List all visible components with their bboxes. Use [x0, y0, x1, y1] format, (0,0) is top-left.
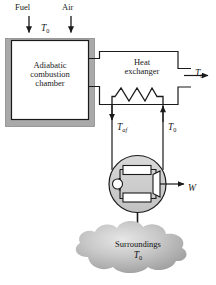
air-label: Air — [62, 3, 73, 12]
heat-exchanger-label: Heat exchanger — [108, 58, 176, 76]
fuel-label: Fuel — [15, 3, 30, 12]
heat-engine-shape — [109, 156, 166, 213]
combustion-chamber-label: Adiabatic combustion chamber — [12, 61, 88, 89]
figure-canvas: Fuel Air T0 Adiabatic combustion chamber… — [0, 0, 216, 285]
work-output-label: W — [188, 177, 196, 194]
heat-exchanger-coil — [112, 88, 163, 105]
cold-stream-temperature-label: T0 — [168, 116, 176, 133]
chamber-to-hx-lower-pipe — [89, 87, 192, 105]
surroundings-label: Surroundings T0 — [93, 240, 183, 260]
combustion-chamber-label-line3: chamber — [12, 79, 88, 88]
heat-exchanger-label-line2: exchanger — [108, 67, 176, 76]
surroundings-temperature-label: T0 — [93, 250, 183, 260]
inlet-temperature-label: T0 — [41, 17, 49, 34]
surroundings-label-text: Surroundings — [93, 240, 183, 249]
hot-stream-temperature-label: Taf — [117, 116, 127, 133]
hx-exit-temperature-label: T0 — [195, 62, 203, 79]
